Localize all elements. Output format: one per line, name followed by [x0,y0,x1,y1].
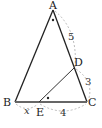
angle-mark-E [47,97,49,99]
label-B: B [3,96,11,109]
angle-mark-A [52,19,54,21]
label-A: A [48,0,58,12]
label-E: E [36,106,44,119]
label-D: D [74,56,83,69]
measure-EC: 4 [60,107,66,118]
label-C: C [88,96,96,109]
side-AB [15,10,53,102]
measure-AD: 5 [68,31,74,42]
measure-DC: 3 [85,76,91,87]
triangle-diagram: A B C D E 5 3 x 4 [0,0,102,128]
segment-DE [39,68,74,102]
measure-BE: x [24,105,30,116]
